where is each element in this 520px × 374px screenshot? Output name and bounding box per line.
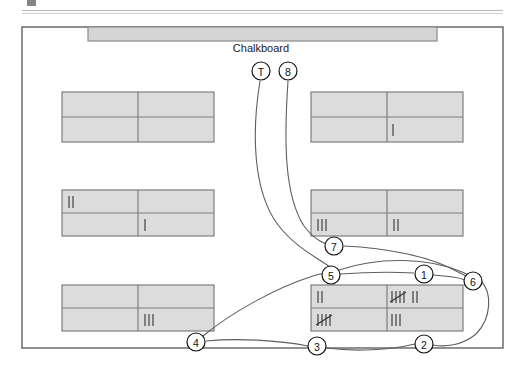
desk-group-bottom-left xyxy=(62,285,214,331)
desk-group-top-right xyxy=(311,92,463,142)
marker-label: 8 xyxy=(285,66,291,78)
marker-label: 7 xyxy=(331,241,337,253)
marker-label: 1 xyxy=(421,269,427,281)
marker-4[interactable]: 4 xyxy=(187,333,205,351)
desk-group-middle-right xyxy=(311,190,463,236)
marker-label: 5 xyxy=(328,270,334,282)
chalkboard-label: Chalkboard xyxy=(233,42,289,54)
desk-group-top-left xyxy=(62,92,214,142)
marker-label: 2 xyxy=(421,339,427,351)
marker-7[interactable]: 7 xyxy=(325,237,343,255)
marker-8[interactable]: 8 xyxy=(279,62,297,80)
chalkboard-shape xyxy=(88,27,437,41)
marker-label: 6 xyxy=(470,276,476,288)
figure-root: Chalkboard xyxy=(0,0,520,374)
marker-label: 4 xyxy=(193,337,199,349)
desk-group-bottom-right xyxy=(311,285,463,331)
marker-1[interactable]: 1 xyxy=(415,265,433,283)
marker-label: 3 xyxy=(314,341,320,353)
marker-label: T xyxy=(258,66,265,78)
marker-3[interactable]: 3 xyxy=(308,337,326,355)
desk-group-middle-left xyxy=(62,190,214,236)
classroom-diagram-canvas: Chalkboard xyxy=(0,0,520,374)
marker-T[interactable]: T xyxy=(252,62,270,80)
marker-2[interactable]: 2 xyxy=(415,335,433,353)
marker-5[interactable]: 5 xyxy=(322,266,340,284)
marker-6[interactable]: 6 xyxy=(464,272,482,290)
